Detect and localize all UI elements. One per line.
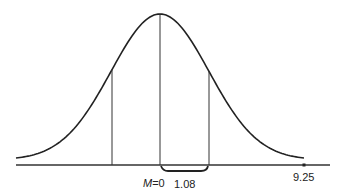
mean-label: M=0 [143, 177, 165, 189]
point-label: 9.25 [293, 171, 314, 183]
point-marker [303, 164, 306, 167]
interval-label: 1.08 [174, 178, 195, 190]
interval-brace [161, 166, 208, 171]
normal-curve-diagram [0, 0, 343, 195]
